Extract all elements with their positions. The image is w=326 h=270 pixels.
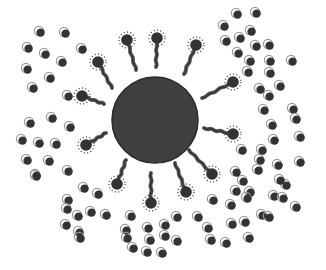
particle bbox=[144, 234, 154, 244]
particle bbox=[192, 211, 202, 221]
particle bbox=[263, 90, 273, 100]
particle bbox=[59, 27, 69, 37]
particle bbox=[274, 80, 284, 90]
diagram-canvas bbox=[0, 0, 326, 270]
particle bbox=[171, 235, 181, 245]
particle bbox=[290, 201, 300, 211]
particle bbox=[277, 192, 287, 202]
surfactant-head bbox=[74, 88, 90, 104]
particle bbox=[244, 55, 254, 65]
particle bbox=[159, 219, 169, 229]
particle bbox=[46, 112, 56, 122]
particle bbox=[21, 63, 31, 73]
particle bbox=[33, 137, 43, 147]
particle bbox=[268, 134, 278, 144]
particle bbox=[62, 165, 72, 175]
particle bbox=[220, 35, 230, 45]
particle bbox=[78, 182, 88, 192]
particle bbox=[294, 131, 304, 141]
particle bbox=[39, 48, 49, 58]
particle bbox=[225, 199, 235, 209]
particle bbox=[60, 219, 70, 229]
surfactant-head bbox=[204, 166, 220, 182]
particle bbox=[230, 166, 240, 176]
particle bbox=[239, 216, 249, 226]
particle bbox=[62, 90, 72, 100]
particle bbox=[202, 222, 212, 232]
particle bbox=[294, 156, 304, 166]
particle bbox=[226, 218, 236, 228]
particle bbox=[21, 154, 31, 164]
particle bbox=[64, 121, 74, 131]
particle bbox=[272, 159, 282, 169]
particle bbox=[27, 82, 37, 92]
particle bbox=[274, 174, 284, 184]
particle bbox=[287, 103, 297, 113]
particle bbox=[16, 134, 26, 144]
particle bbox=[207, 194, 217, 204]
particle bbox=[61, 203, 71, 213]
particle bbox=[242, 66, 252, 76]
particle bbox=[85, 206, 95, 216]
particle bbox=[125, 210, 135, 220]
particle bbox=[237, 175, 247, 185]
particle bbox=[254, 83, 264, 93]
particle bbox=[250, 7, 260, 17]
particle bbox=[220, 237, 230, 247]
surfactant-head bbox=[119, 32, 135, 48]
particle bbox=[250, 40, 260, 50]
particle bbox=[43, 155, 53, 165]
particle bbox=[290, 113, 300, 123]
surfactant-head bbox=[225, 126, 241, 142]
particle bbox=[92, 188, 102, 198]
particle bbox=[44, 72, 54, 82]
micelle-core bbox=[112, 77, 198, 163]
particle bbox=[264, 67, 274, 77]
surfactant-head bbox=[178, 184, 194, 200]
particle bbox=[245, 25, 255, 35]
surfactant-head bbox=[109, 176, 125, 192]
particle bbox=[141, 246, 151, 256]
particle bbox=[22, 42, 32, 52]
particle bbox=[100, 209, 110, 219]
surfactant-head bbox=[149, 30, 165, 46]
surfactant-head bbox=[143, 195, 159, 211]
particle bbox=[24, 117, 34, 127]
particle bbox=[50, 138, 60, 148]
particle bbox=[256, 209, 266, 219]
micelle-diagram bbox=[0, 0, 326, 270]
particle bbox=[236, 144, 246, 154]
particle bbox=[218, 20, 228, 30]
particle bbox=[72, 210, 82, 220]
particle bbox=[252, 164, 262, 174]
particle bbox=[230, 185, 240, 195]
particle bbox=[127, 242, 137, 252]
particle bbox=[264, 55, 274, 65]
particle bbox=[76, 43, 86, 53]
particle bbox=[156, 247, 166, 257]
particle bbox=[56, 56, 66, 66]
particle bbox=[286, 55, 296, 65]
particle bbox=[258, 104, 268, 114]
surfactant-head bbox=[188, 37, 204, 53]
particle bbox=[34, 26, 44, 36]
particle bbox=[254, 154, 264, 164]
particle bbox=[142, 222, 152, 232]
particle bbox=[159, 230, 169, 240]
particle bbox=[171, 211, 181, 221]
particle bbox=[263, 39, 273, 49]
particle bbox=[256, 144, 266, 154]
particle bbox=[231, 8, 241, 18]
particle bbox=[243, 232, 253, 242]
particle bbox=[234, 32, 244, 42]
particle bbox=[232, 47, 242, 57]
particle bbox=[266, 119, 276, 129]
particle bbox=[205, 234, 215, 244]
